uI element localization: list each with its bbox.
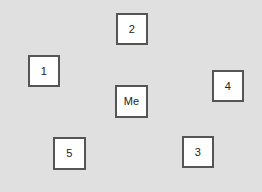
diagram-canvas: 2 1 4 Me 3 5	[0, 0, 262, 192]
node-box-me[interactable]: Me	[115, 85, 148, 118]
node-label: 1	[41, 66, 47, 77]
node-box-3[interactable]: 3	[182, 136, 214, 168]
node-box-2[interactable]: 2	[116, 13, 148, 45]
node-label: 3	[195, 147, 201, 158]
node-label: 5	[66, 148, 72, 159]
node-label: 2	[129, 24, 135, 35]
node-label: 4	[225, 81, 231, 92]
node-box-4[interactable]: 4	[212, 70, 244, 102]
node-label: Me	[124, 96, 140, 107]
node-box-1[interactable]: 1	[28, 55, 60, 87]
node-box-5[interactable]: 5	[53, 137, 86, 170]
